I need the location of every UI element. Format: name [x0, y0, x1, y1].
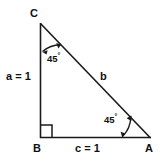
side-label-c: c = 1: [75, 143, 100, 154]
vertex-label-c: C: [30, 8, 38, 19]
degree-symbol-icon: °: [115, 113, 118, 120]
angle-label-c: 45°: [47, 52, 60, 64]
side-label-b: b: [100, 71, 107, 82]
right-angle-square-icon: [41, 125, 53, 138]
vertex-label-b: B: [33, 143, 41, 154]
angle-arc-a-icon: [121, 116, 132, 138]
angle-label-c-value: 45: [47, 53, 58, 64]
triangle-drawing: [0, 0, 164, 165]
angle-label-a-value: 45: [104, 114, 115, 125]
vertex-label-a: A: [145, 143, 153, 154]
degree-symbol-icon: °: [58, 52, 61, 59]
triangle-diagram: C B A a = 1 b c = 1 45° 45°: [0, 0, 164, 165]
angle-label-a: 45°: [104, 113, 117, 125]
side-label-a: a = 1: [6, 71, 31, 82]
side-b-line: [41, 24, 151, 139]
